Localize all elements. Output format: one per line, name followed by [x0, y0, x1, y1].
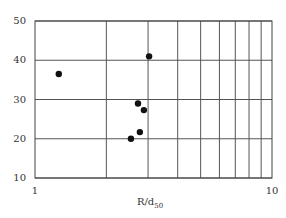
data-point	[135, 100, 141, 106]
x-axis-ticks: 110	[32, 185, 279, 196]
data-point	[137, 129, 143, 135]
y-tick-label: 50	[13, 15, 26, 26]
data-points	[56, 53, 153, 142]
data-point	[128, 136, 134, 142]
data-point	[56, 71, 62, 77]
x-axis-label: R/d50	[137, 196, 163, 210]
grid-lines	[35, 21, 272, 178]
x-tick-label: 1	[32, 185, 38, 196]
data-point	[141, 107, 147, 113]
y-tick-label: 40	[13, 54, 26, 65]
x-tick-label: 10	[266, 185, 279, 196]
y-axis-ticks: 1020304050	[13, 15, 26, 183]
y-tick-label: 10	[13, 172, 26, 183]
data-point	[146, 53, 152, 59]
y-tick-label: 20	[13, 133, 26, 144]
y-tick-label: 30	[13, 94, 26, 105]
scatter-chart: 1020304050 110 R/d50	[0, 0, 286, 218]
